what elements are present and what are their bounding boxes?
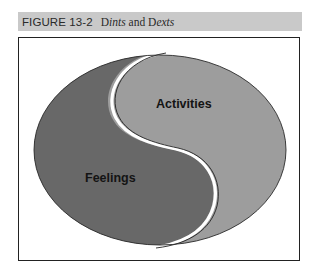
activities-label: Activities — [156, 97, 212, 111]
yin-yang-diagram: Activities Feelings — [0, 0, 316, 273]
feelings-label: Feelings — [85, 171, 136, 185]
